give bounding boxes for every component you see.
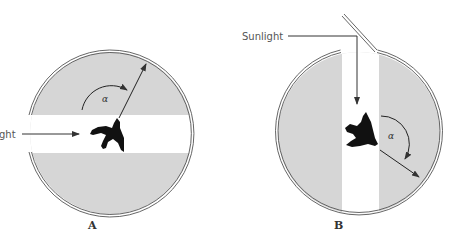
orientation-diagram: ght α A Sunlight α <box>0 0 472 250</box>
mirror <box>342 14 377 52</box>
alpha-symbol-a: α <box>102 94 108 104</box>
alpha-symbol-b: α <box>388 131 394 141</box>
panel-b: Sunlight α B <box>242 14 446 232</box>
sunlight-label-b: Sunlight <box>242 31 283 42</box>
panel-a: ght α A <box>0 50 200 232</box>
panel-label-a: A <box>87 219 97 232</box>
panel-label-b: B <box>334 219 343 232</box>
sunlight-label-a: ght <box>0 129 16 140</box>
